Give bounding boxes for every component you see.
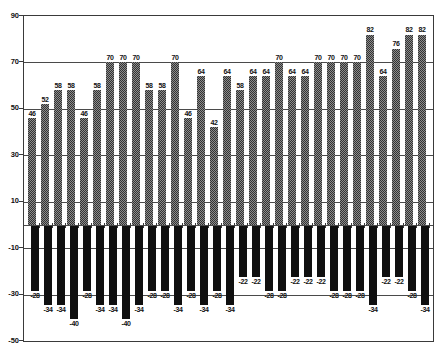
- positive-bar: [28, 118, 36, 225]
- zero-axis-plus-tick: [299, 223, 300, 228]
- positive-bar: [340, 62, 348, 225]
- zero-axis-plus-tick: [143, 223, 144, 228]
- zero-axis-plus-tick: [351, 223, 352, 228]
- negative-bar-value-label: -28: [270, 292, 294, 300]
- y-axis-tick-mark: [19, 154, 23, 155]
- zero-axis-plus-tick: [104, 223, 105, 228]
- positive-bar: [405, 35, 413, 225]
- negative-bar-value-label: -40: [62, 320, 86, 328]
- positive-bar: [236, 90, 244, 225]
- bar-chart-figure: 46-2852-3458-3458-4046-2858-3470-3470-40…: [0, 0, 443, 359]
- zero-axis-plus-tick: [78, 223, 79, 228]
- zero-axis-plus-tick: [195, 223, 196, 228]
- positive-bar: [314, 62, 322, 225]
- negative-bar: [317, 226, 325, 277]
- negative-bar: [382, 226, 390, 277]
- negative-bar-value-label: -34: [218, 306, 242, 314]
- negative-bar: [148, 226, 156, 291]
- positive-bar: [301, 76, 309, 225]
- zero-axis-plus-tick: [182, 223, 183, 228]
- zero-axis-plus-tick: [416, 223, 417, 228]
- positive-bar: [223, 76, 231, 225]
- positive-bar-value-label: 82: [358, 26, 382, 34]
- y-axis-tick-mark: [19, 294, 23, 295]
- positive-bar-value-label: 64: [189, 68, 213, 76]
- negative-bar: [395, 226, 403, 277]
- negative-bar-value-label: -34: [166, 306, 190, 314]
- positive-bar: [327, 62, 335, 225]
- zero-axis-plus-tick: [312, 223, 313, 228]
- positive-bar-value-label: 64: [215, 68, 239, 76]
- y-axis-tick-mark: [19, 340, 23, 341]
- positive-bar: [379, 76, 387, 225]
- negative-bar: [291, 226, 299, 277]
- negative-bar: [252, 226, 260, 277]
- negative-bar: [369, 226, 377, 305]
- positive-bar: [210, 127, 218, 225]
- negative-bar: [239, 226, 247, 277]
- negative-bar-value-label: -34: [127, 306, 151, 314]
- negative-bar-value-label: -34: [413, 306, 437, 314]
- negative-bar: [31, 226, 39, 291]
- zero-axis-plus-tick: [403, 223, 404, 228]
- zero-axis-plus-tick: [130, 223, 131, 228]
- y-axis-tick-mark: [19, 247, 23, 248]
- zero-axis-plus-tick: [234, 223, 235, 228]
- negative-bar: [122, 226, 130, 319]
- y-axis-tick-mark: [19, 61, 23, 62]
- positive-bar: [54, 90, 62, 225]
- zero-axis-plus-tick: [91, 223, 92, 228]
- plot-area: 46-2852-3458-3458-4046-2858-3470-3470-40…: [23, 15, 434, 342]
- y-axis-tick-label: -10: [0, 243, 19, 252]
- positive-bar: [145, 90, 153, 225]
- positive-bar: [392, 49, 400, 225]
- negative-bar: [70, 226, 78, 319]
- positive-bar: [275, 62, 283, 225]
- positive-bar-value-label: 58: [59, 82, 83, 90]
- zero-axis-plus-tick: [247, 223, 248, 228]
- positive-bar: [80, 118, 88, 225]
- zero-axis-plus-tick: [286, 223, 287, 228]
- zero-axis-plus-tick: [364, 223, 365, 228]
- negative-bar: [343, 226, 351, 291]
- negative-bar: [304, 226, 312, 277]
- y-axis-tick-label: 90: [0, 11, 19, 20]
- positive-bar-value-label: 82: [410, 26, 434, 34]
- positive-bar: [197, 76, 205, 225]
- y-axis-tick-mark: [19, 108, 23, 109]
- negative-bar-value-label: -34: [361, 306, 385, 314]
- positive-bar: [249, 76, 257, 225]
- zero-axis-plus-tick: [52, 223, 53, 228]
- y-axis-tick-label: 30: [0, 150, 19, 159]
- y-axis-tick-label: -50: [0, 336, 19, 345]
- zero-axis-plus-tick: [429, 223, 430, 228]
- positive-bar-value-label: 70: [267, 54, 291, 62]
- zero-axis-plus-tick: [208, 223, 209, 228]
- positive-bar: [119, 62, 127, 225]
- zero-axis-plus-tick: [65, 223, 66, 228]
- zero-axis-plus-tick: [169, 223, 170, 228]
- negative-bar: [421, 226, 429, 305]
- positive-bar: [171, 62, 179, 225]
- positive-bar: [288, 76, 296, 225]
- zero-axis-plus-tick: [39, 223, 40, 228]
- y-axis-tick-label: -30: [0, 289, 19, 298]
- zero-axis-plus-tick: [156, 223, 157, 228]
- positive-bar-value-label: 70: [163, 54, 187, 62]
- negative-bar: [109, 226, 117, 305]
- negative-bar: [83, 226, 91, 291]
- negative-bar-value-label: -40: [114, 320, 138, 328]
- positive-bar: [418, 35, 426, 225]
- negative-bar-value-label: -34: [192, 306, 216, 314]
- zero-axis-plus-tick: [117, 223, 118, 228]
- positive-bar: [106, 62, 114, 225]
- positive-bar: [184, 118, 192, 225]
- negative-bar: [330, 226, 338, 291]
- positive-bar: [366, 35, 374, 225]
- positive-bar: [93, 90, 101, 225]
- negative-bar: [187, 226, 195, 291]
- negative-bar: [213, 226, 221, 291]
- y-axis-tick-label: 50: [0, 103, 19, 112]
- negative-bar: [44, 226, 52, 305]
- y-axis-tick-mark: [19, 15, 23, 16]
